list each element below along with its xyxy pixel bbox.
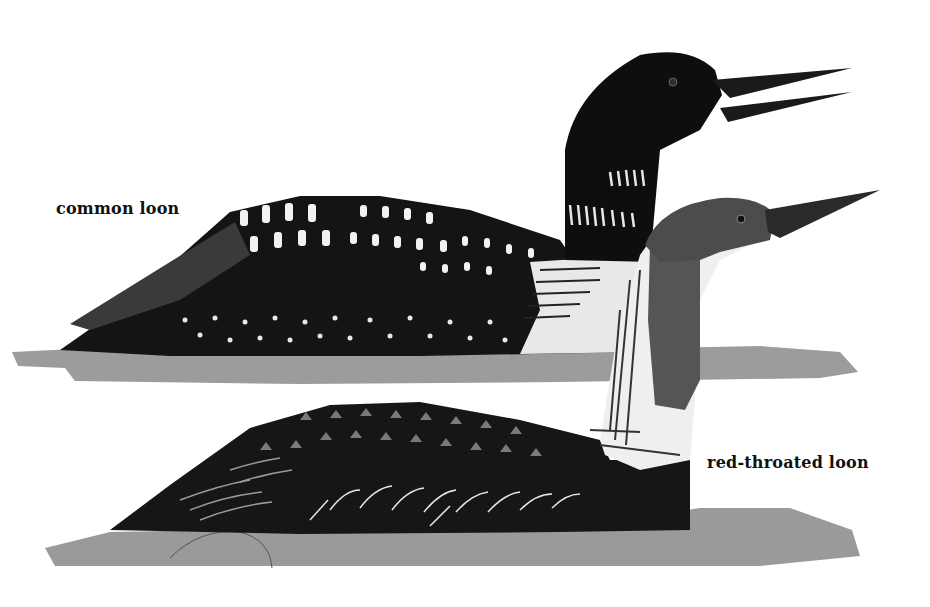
- red-throated-loon-bill: [765, 190, 880, 238]
- red-throated-loon-throat: [648, 245, 700, 410]
- common-loon-label: common loon: [56, 199, 179, 218]
- loon-illustration: [0, 0, 930, 607]
- common-loon-upper-bill: [712, 68, 852, 98]
- common-loon-eye: [669, 78, 677, 86]
- common-loon-lower-bill: [720, 92, 852, 122]
- red-throated-loon-label: red-throated loon: [707, 453, 869, 472]
- red-throated-loon-eye: [737, 215, 745, 223]
- red-throated-loon-head: [645, 198, 775, 262]
